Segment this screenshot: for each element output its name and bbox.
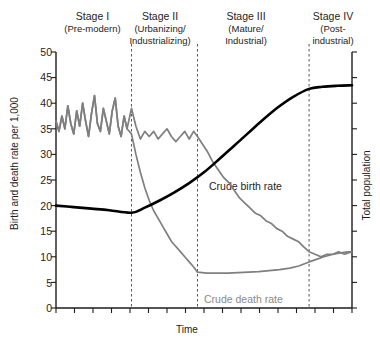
bottom-axis-ticks: [56, 308, 352, 313]
series-line-crude-birth-rate: [56, 96, 352, 257]
right-axis-ticks: [352, 52, 357, 308]
plot-area: [0, 0, 380, 348]
demographic-transition-chart: Stage I (Pre-modern) Stage II (Urbanizin…: [0, 0, 380, 348]
series-line-total-population: [56, 85, 352, 213]
left-axis-ticks: [51, 52, 56, 308]
series-line-crude-death-rate: [56, 96, 352, 274]
data-series-group: [56, 85, 352, 273]
